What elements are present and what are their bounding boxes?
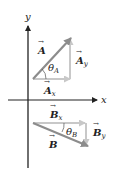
angle-b-arc [62,123,64,132]
angle-a-label: θA [48,63,59,75]
angle-b-label: θB [66,127,77,139]
vector-b [33,123,88,146]
x-axis-label: x [101,95,107,105]
vector-b-label: B [49,140,57,150]
vector-a-label: A [38,46,46,56]
y-axis-label: y [25,12,31,22]
vector-a-x-component-label: Ax [44,86,56,98]
vector-b-x-component-label: Bx [50,110,62,122]
vector-a-y-component-label: Ay [76,56,88,68]
vector-b-y-component-label: By [93,128,105,140]
